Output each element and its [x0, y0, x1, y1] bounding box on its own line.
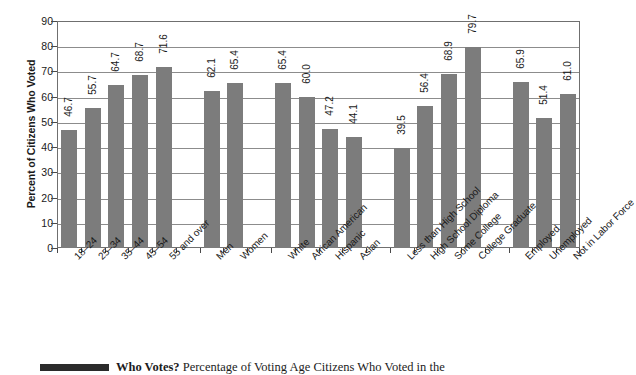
bar-slot: 64.7: [105, 21, 129, 248]
bar-value-label: 56.4: [420, 73, 430, 92]
bar-value-label: 47.2: [325, 96, 335, 115]
bar[interactable]: [108, 85, 124, 248]
x-tick-mark: [390, 248, 391, 253]
bar-value-label: 55.7: [88, 75, 98, 94]
category-spacer: [247, 21, 271, 248]
y-tick-label: 60: [23, 92, 53, 102]
bar[interactable]: [85, 108, 101, 248]
x-tick-mark: [509, 248, 510, 253]
figure-caption: Who Votes? Percentage of Voting Age Citi…: [40, 361, 596, 375]
bar[interactable]: [132, 75, 148, 248]
bar-slot: 68.7: [128, 21, 152, 248]
y-tick-label: 40: [23, 142, 53, 152]
bar-slot: 60.0: [295, 21, 319, 248]
bar-value-label: 65.9: [516, 49, 526, 68]
caption-rule-swatch: [40, 364, 109, 371]
y-tick-label: 0: [23, 243, 53, 253]
caption-title: Who Votes?: [116, 361, 183, 374]
bars-layer: 46.755.764.768.771.662.165.465.460.047.2…: [57, 21, 580, 248]
x-tick-mark: [271, 248, 272, 253]
bar[interactable]: [560, 94, 576, 248]
y-tick-label: 90: [23, 16, 53, 26]
category-spacer: [366, 21, 390, 248]
bar[interactable]: [275, 83, 291, 248]
bar[interactable]: [61, 130, 77, 248]
bar-slot: 62.1: [200, 21, 224, 248]
bar-slot: 39.5: [390, 21, 414, 248]
x-axis-category-labels: 18–2425–3435–4445–5455 and overMenWomenW…: [57, 254, 580, 354]
bar[interactable]: [156, 67, 172, 248]
bar-slot: 55.7: [81, 21, 105, 248]
bar-value-label: 71.6: [159, 35, 169, 54]
bar-value-label: 64.7: [111, 52, 121, 71]
bar-value-label: 79.7: [468, 14, 478, 33]
bar[interactable]: [394, 148, 410, 248]
bar-slot: 65.4: [223, 21, 247, 248]
bar-value-label: 60.0: [302, 64, 312, 83]
bar-value-label: 61.0: [563, 61, 573, 80]
bar-slot: 46.7: [57, 21, 81, 248]
caption-text: Who Votes? Percentage of Voting Age Citi…: [116, 361, 445, 374]
bar-value-label: 68.9: [444, 42, 454, 61]
x-tick-mark: [200, 248, 201, 253]
caption-subtitle: Percentage of Voting Age Citizens Who Vo…: [183, 361, 445, 374]
bar-slot: 61.0: [556, 21, 580, 248]
bar[interactable]: [227, 83, 243, 248]
y-tick-label: 50: [23, 117, 53, 127]
bar-value-label: 62.1: [207, 59, 217, 78]
bar-value-label: 68.7: [135, 42, 145, 61]
y-tick-label: 10: [23, 218, 53, 228]
bar-value-label: 65.4: [230, 50, 240, 69]
bar-value-label: 39.5: [397, 116, 407, 135]
category-spacer: [176, 21, 200, 248]
bar-value-label: 51.4: [539, 86, 549, 105]
y-tick-label: 70: [23, 66, 53, 76]
bar-slot: 47.2: [319, 21, 343, 248]
bar-value-label: 46.7: [64, 97, 74, 116]
x-tick-mark: [57, 248, 58, 253]
y-tick-label: 80: [23, 41, 53, 51]
bar-slot: 56.4: [414, 21, 438, 248]
bar-value-label: 65.4: [278, 50, 288, 69]
bar-value-label: 44.1: [349, 104, 359, 123]
y-tick-label: 20: [23, 193, 53, 203]
bar-slot: 71.6: [152, 21, 176, 248]
bar-slot: 51.4: [532, 21, 556, 248]
bar-slot: 65.4: [271, 21, 295, 248]
y-tick-label: 30: [23, 167, 53, 177]
bar[interactable]: [299, 97, 315, 248]
